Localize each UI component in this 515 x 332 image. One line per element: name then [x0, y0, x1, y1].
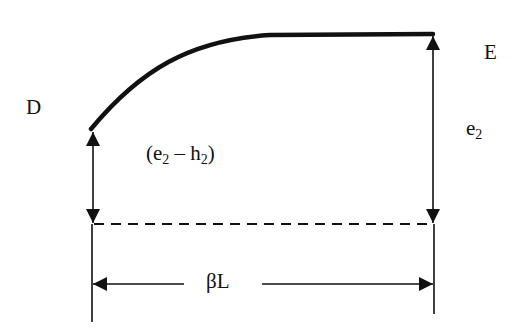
span-label: βL [206, 271, 230, 292]
right-height-label-sub: 2 [475, 127, 482, 142]
point-d-label: D [26, 97, 41, 118]
diagram-drawing [0, 0, 515, 332]
diagram-canvas: D E (e2 – h2) e2 βL [0, 0, 515, 332]
left-height-label-pre: (e [146, 141, 162, 165]
left-height-label-mid: – h [169, 141, 201, 165]
left-height-label-post: ) [208, 141, 215, 165]
left-height-label-sub2: 2 [201, 152, 208, 167]
point-e-label: E [484, 42, 497, 63]
right-height-label-base: e [466, 116, 475, 140]
right-height-label: e2 [466, 118, 482, 139]
profile-curve [91, 34, 433, 129]
left-height-label: (e2 – h2) [146, 143, 215, 164]
